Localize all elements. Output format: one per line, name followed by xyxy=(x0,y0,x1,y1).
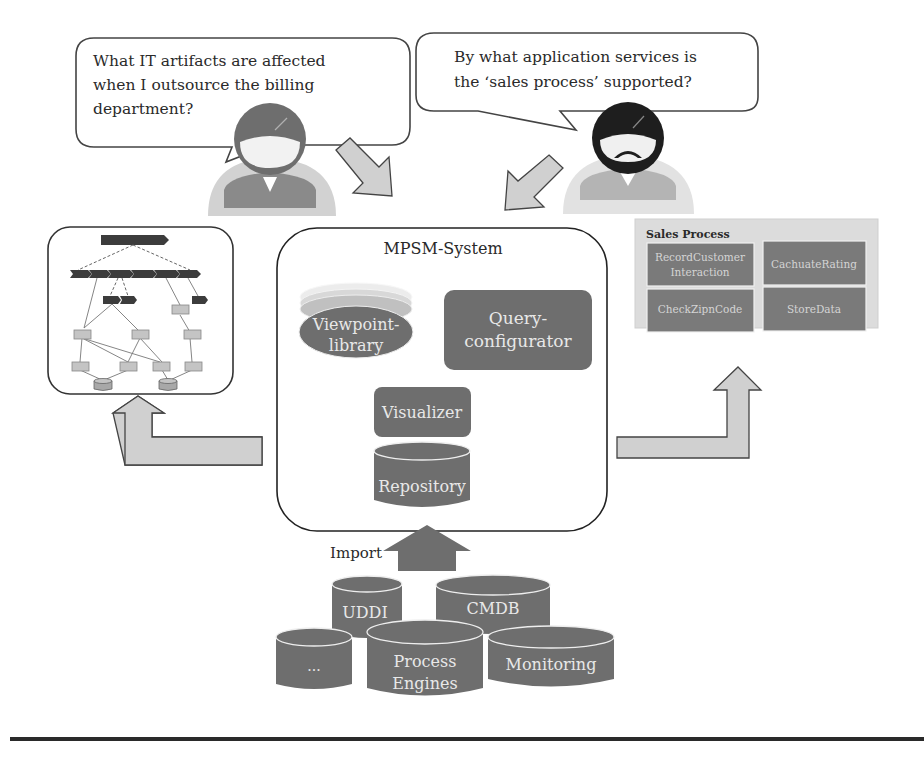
right-question-line-1: By what application services is xyxy=(454,48,697,66)
svg-text:CachuateRating: CachuateRating xyxy=(771,258,857,270)
service-record-customer-interaction: RecordCustomer Interaction xyxy=(647,243,754,286)
svg-text:CheckZipnCode: CheckZipnCode xyxy=(658,303,743,315)
svg-text:StoreData: StoreData xyxy=(787,303,841,315)
svg-text:UDDI: UDDI xyxy=(342,603,387,622)
left-question-line-2: when I outsource the billing xyxy=(93,76,314,94)
source-monitoring: Monitoring xyxy=(488,626,614,687)
output-arrow-right xyxy=(617,367,761,458)
bottom-divider xyxy=(10,737,924,741)
svg-text:Viewpoint-: Viewpoint- xyxy=(312,315,400,334)
source-process-engines: Process Engines xyxy=(367,620,483,696)
sales-process-title: Sales Process xyxy=(646,228,730,241)
svg-text:Interaction: Interaction xyxy=(670,266,729,278)
import-arrow xyxy=(383,525,471,571)
visualizer: Visualizer xyxy=(374,387,471,437)
svg-text:...: ... xyxy=(307,658,320,674)
mpsm-system-box: MPSM-System Viewpoint- library Query- co… xyxy=(277,228,607,531)
svg-text:Query-: Query- xyxy=(489,308,547,328)
mpsm-system-title: MPSM-System xyxy=(383,239,502,258)
sales-process-panel: Sales Process RecordCustomer Interaction… xyxy=(635,219,878,332)
mpsm-diagram: What IT artifacts are affected when I ou… xyxy=(0,0,924,758)
svg-text:library: library xyxy=(329,336,383,355)
arrow-down-right-left-user xyxy=(336,138,392,196)
left-question-line-1: What IT artifacts are affected xyxy=(93,52,326,70)
process-chevron-top xyxy=(101,235,169,245)
viewpoint-library: Viewpoint- library xyxy=(299,283,413,358)
svg-text:Process: Process xyxy=(394,652,457,671)
repository-database: Repository xyxy=(374,442,470,507)
right-speech-bubble: By what application services is the ‘sal… xyxy=(416,33,758,130)
query-configurator: Query- configurator xyxy=(444,290,592,370)
svg-text:Monitoring: Monitoring xyxy=(506,655,597,674)
svg-text:configurator: configurator xyxy=(464,331,572,351)
svg-text:Visualizer: Visualizer xyxy=(381,403,463,422)
person-icon-right xyxy=(563,102,694,214)
source-other: ... xyxy=(276,628,352,689)
left-question-line-3: department? xyxy=(93,100,193,118)
service-calculate-rating: CachuateRating xyxy=(763,241,866,285)
arrow-down-left-right-user xyxy=(505,155,563,210)
dependency-graph-panel xyxy=(48,227,233,394)
service-check-zip-code: CheckZipnCode xyxy=(647,289,754,332)
svg-text:Repository: Repository xyxy=(378,477,465,496)
right-question-line-2: the ‘sales process’ supported? xyxy=(454,73,692,91)
svg-text:CMDB: CMDB xyxy=(466,599,519,618)
svg-text:Engines: Engines xyxy=(392,674,457,693)
svg-text:RecordCustomer: RecordCustomer xyxy=(655,251,746,263)
import-label: Import xyxy=(330,544,382,562)
service-store-data: StoreData xyxy=(763,287,866,331)
